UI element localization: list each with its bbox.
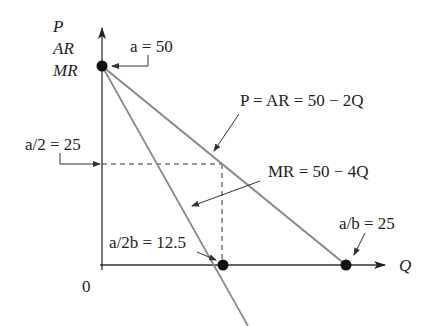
intercept-label: a = 50 bbox=[130, 37, 173, 56]
mr-curve-label: MR = 50 − 4Q bbox=[268, 162, 368, 181]
point-intercept bbox=[97, 61, 108, 72]
mr-zero-label: a/2b = 12.5 bbox=[109, 233, 186, 252]
demand-zero-leader bbox=[354, 233, 365, 255]
y-label-mr: MR bbox=[52, 61, 78, 80]
origin-label: 0 bbox=[82, 277, 91, 296]
y-label-ar: AR bbox=[52, 39, 74, 58]
mr-curve bbox=[102, 66, 248, 326]
point-demand-zero bbox=[341, 260, 352, 271]
mr-leader bbox=[192, 181, 260, 206]
demand-curve-label: P = AR = 50 − 2Q bbox=[240, 91, 364, 110]
x-label-q: Q bbox=[399, 256, 411, 275]
intercept-leader bbox=[112, 55, 148, 66]
diagram-canvas: P AR MR Q 0 a = 50 a/2 = 25 P = AR = 50 … bbox=[0, 0, 431, 326]
half-price-leader bbox=[60, 153, 100, 164]
y-label-p: P bbox=[52, 17, 63, 36]
half-price-label: a/2 = 25 bbox=[25, 135, 81, 154]
demand-zero-label: a/b = 25 bbox=[339, 214, 395, 233]
demand-leader bbox=[214, 114, 239, 151]
point-mr-zero bbox=[218, 260, 229, 271]
